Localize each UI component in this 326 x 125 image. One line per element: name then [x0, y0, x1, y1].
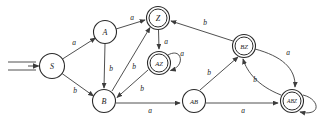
state-AZ-label: AZ	[154, 60, 163, 67]
edge-label-BZ-Z: b	[203, 18, 207, 27]
edge-S-A	[63, 38, 96, 59]
edge-label-AB-ABZ: a	[241, 106, 245, 115]
edge-label-S-A: a	[72, 38, 76, 47]
state-BZ[interactable]: BZ	[233, 35, 256, 58]
edge-label-AB-BZ: b	[207, 68, 211, 77]
edge-label-S-B: b	[73, 86, 77, 95]
edge-label-AZ-self: a	[180, 49, 184, 58]
edge-AB-BZ	[200, 57, 238, 90]
edge-A-B	[104, 44, 105, 89]
edge-label-B-AB: a	[148, 106, 152, 115]
state-nodes: S A B Z AZ BZ	[40, 7, 304, 113]
edge-ABZ-BZ	[243, 59, 281, 95]
edge-B-Z	[112, 28, 150, 92]
state-Z[interactable]: Z	[147, 7, 170, 30]
state-Z-label: Z	[156, 14, 161, 23]
state-BZ-label: BZ	[240, 43, 248, 50]
state-A[interactable]: A	[94, 21, 117, 44]
edge-label-B-Z: b	[132, 62, 136, 71]
state-AZ[interactable]: AZ	[148, 52, 171, 75]
state-S[interactable]: S	[40, 54, 65, 79]
automaton-diagram: a b a b b a a a b b a b b a S A	[0, 0, 326, 125]
edge-label-A-Z: a	[130, 13, 134, 22]
edge-label-A-B: b	[109, 64, 113, 73]
state-ABZ[interactable]: ABZ	[281, 90, 304, 113]
edge-label-ABZ-BZ: b	[253, 75, 257, 84]
edge-label-AZ-B: b	[140, 84, 144, 93]
edge-S-B	[62, 74, 94, 97]
edge-Z-AZ	[159, 30, 160, 50]
edge-label-BZ-ABZ: a	[286, 48, 290, 57]
state-B[interactable]: B	[93, 90, 116, 113]
state-ABZ-label: ABZ	[286, 98, 298, 104]
state-B-label: B	[102, 97, 107, 106]
state-AB[interactable]: AB	[183, 90, 206, 113]
state-A-label: A	[102, 28, 108, 37]
edge-BZ-Z	[171, 21, 233, 41]
edge-label-Z-AZ: a	[164, 37, 168, 46]
fsm-canvas: a b a b b a a a b b a b b a S A	[0, 0, 326, 125]
state-AB-label: AB	[189, 98, 198, 105]
start-arrow	[8, 62, 39, 70]
state-S-label: S	[50, 62, 54, 71]
